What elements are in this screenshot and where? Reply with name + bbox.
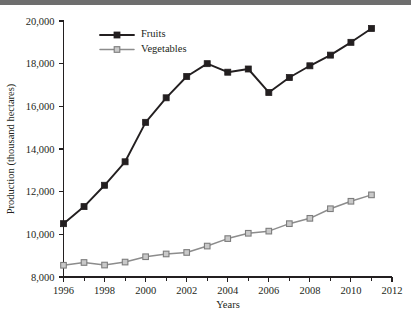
- data-point-marker-fruits: [245, 66, 251, 72]
- x-tick-label: 2000: [135, 285, 156, 296]
- figure-container: 8,00010,00012,00014,00016,00018,00020,00…: [0, 0, 411, 317]
- y-tick-label: 14,000: [26, 144, 55, 155]
- data-point-marker-fruits: [122, 159, 128, 165]
- data-point-marker-fruits: [307, 63, 313, 69]
- data-point-marker-vegetables: [163, 251, 169, 257]
- series-line-fruits: [64, 28, 372, 223]
- data-point-marker-vegetables: [328, 206, 334, 212]
- data-point-marker-fruits: [143, 119, 149, 125]
- data-point-marker-fruits: [81, 204, 87, 210]
- data-point-marker-vegetables: [143, 254, 149, 260]
- data-point-marker-fruits: [348, 39, 354, 45]
- x-tick-label: 2008: [299, 285, 320, 296]
- data-point-marker-fruits: [204, 61, 210, 67]
- chart-legend: FruitsVegetables: [100, 28, 186, 54]
- data-point-marker-vegetables: [61, 262, 67, 268]
- x-tick-label: 1996: [53, 285, 74, 296]
- data-point-marker-vegetables: [122, 259, 128, 265]
- x-axis-ticks: 199619982000200220042006200820102012: [53, 277, 403, 296]
- data-point-marker-fruits: [286, 75, 292, 81]
- y-axis-title: Production (thousand hectares): [5, 83, 17, 214]
- data-point-marker-fruits: [327, 52, 333, 58]
- data-series-group: [61, 25, 375, 268]
- data-point-marker-vegetables: [287, 221, 293, 227]
- y-tick-label: 8,000: [31, 272, 55, 283]
- x-tick-label: 2002: [176, 285, 197, 296]
- legend-label-vegetables: Vegetables: [141, 43, 186, 54]
- series-line-vegetables: [64, 195, 372, 265]
- data-point-marker-vegetables: [245, 230, 251, 236]
- data-point-marker-fruits: [184, 73, 190, 79]
- data-point-marker-vegetables: [369, 192, 375, 198]
- x-tick-label: 2012: [382, 285, 403, 296]
- chart-area: 8,00010,00012,00014,00016,00018,00020,00…: [0, 5, 411, 317]
- data-point-marker-fruits: [163, 95, 169, 101]
- y-tick-label: 20,000: [26, 16, 55, 27]
- x-tick-label: 2010: [340, 285, 361, 296]
- x-axis-title: Years: [216, 299, 239, 310]
- data-point-marker-vegetables: [184, 250, 190, 256]
- line-chart: 8,00010,00012,00014,00016,00018,00020,00…: [0, 5, 411, 317]
- data-point-marker-vegetables: [307, 216, 313, 222]
- data-point-marker-fruits: [368, 25, 374, 31]
- x-tick-label: 1998: [94, 285, 115, 296]
- data-point-marker-vegetables: [81, 260, 87, 266]
- data-point-marker-fruits: [61, 221, 67, 227]
- data-point-marker-vegetables: [102, 262, 108, 268]
- data-point-marker-fruits: [266, 89, 272, 95]
- data-point-marker-vegetables: [204, 243, 210, 249]
- legend-swatch-marker-fruits: [114, 32, 120, 38]
- data-point-marker-fruits: [102, 182, 108, 188]
- data-point-marker-fruits: [225, 69, 231, 75]
- y-axis-ticks: 8,00010,00012,00014,00016,00018,00020,00…: [26, 16, 64, 283]
- data-point-marker-vegetables: [266, 228, 272, 234]
- data-point-marker-vegetables: [225, 236, 231, 242]
- y-tick-label: 16,000: [26, 101, 55, 112]
- legend-swatch-marker-vegetables: [114, 47, 120, 53]
- y-tick-label: 18,000: [26, 58, 55, 69]
- x-tick-label: 2004: [217, 285, 239, 296]
- y-tick-label: 12,000: [26, 186, 55, 197]
- y-tick-label: 10,000: [26, 229, 55, 240]
- legend-label-fruits: Fruits: [141, 28, 166, 39]
- data-point-marker-vegetables: [348, 198, 354, 204]
- x-tick-label: 2006: [258, 285, 279, 296]
